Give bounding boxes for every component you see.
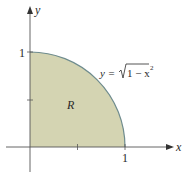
- y-axis-arrow-icon: [27, 6, 33, 14]
- curve-equation: y = 1 − x 2: [99, 64, 154, 79]
- quarter-circle-figure: y x 1 1 R y = 1 − x 2: [0, 0, 188, 176]
- y-axis-label: y: [34, 3, 41, 17]
- equation-exponent: 2: [150, 64, 154, 72]
- figure-canvas: y x 1 1 R y = 1 − x 2: [0, 0, 188, 176]
- x-tick-label-one: 1: [122, 151, 128, 165]
- radicand-text: 1 − x: [127, 67, 150, 79]
- x-axis-label: x: [175, 140, 182, 154]
- equation-radicand: 1 − x: [127, 67, 150, 79]
- equation-prefix: y =: [99, 67, 118, 79]
- region-label: R: [66, 98, 75, 112]
- x-axis-arrow-icon: [166, 144, 174, 150]
- y-tick-label-one: 1: [19, 46, 25, 60]
